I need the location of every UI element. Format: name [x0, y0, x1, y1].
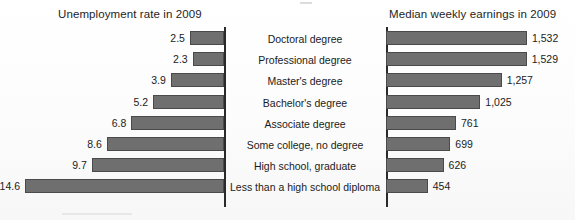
unemployment-bar [25, 179, 224, 193]
category-label: Doctoral degree [226, 30, 384, 48]
earnings-value-label: 761 [461, 116, 479, 130]
category-label: Professional degree [226, 51, 384, 69]
earnings-bar [386, 179, 428, 193]
earnings-value-label: 699 [455, 137, 473, 151]
chart-row: 6.8Associate degree761 [0, 114, 575, 135]
left-chart-title: Unemployment rate in 2009 [58, 8, 202, 20]
earnings-bar-group: 699 [386, 135, 575, 156]
earnings-bar [386, 158, 444, 172]
earnings-bar [386, 116, 456, 130]
chart-row: 9.7High school, graduate626 [0, 156, 575, 177]
earnings-bar [386, 95, 480, 109]
category-label: High school, graduate [226, 157, 384, 175]
unemployment-bar [190, 31, 224, 45]
earnings-bar-group: 1,529 [386, 50, 575, 71]
category-label: Bachelor's degree [226, 94, 384, 112]
scan-artifact-bottom [62, 213, 132, 215]
unemployment-value-label: 2.3 [173, 52, 188, 66]
earnings-value-label: 1,529 [532, 52, 558, 66]
unemployment-value-label: 3.9 [151, 73, 166, 87]
unemployment-value-label: 5.2 [134, 95, 149, 109]
unemployment-value-label: 14.6 [0, 179, 20, 193]
earnings-bar [386, 52, 527, 66]
unemployment-bar-group: 5.2 [0, 93, 224, 114]
earnings-bar [386, 31, 527, 45]
earnings-value-label: 1,257 [507, 73, 533, 87]
right-chart-title: Median weekly earnings in 2009 [389, 8, 556, 20]
chart-row: 8.6Some college, no degree699 [0, 135, 575, 156]
chart-row: 14.6Less than a high school diploma454 [0, 177, 575, 198]
unemployment-bar [171, 73, 224, 87]
category-label: Master's degree [226, 72, 384, 90]
unemployment-value-label: 6.8 [112, 116, 127, 130]
chart-rows: 2.5Doctoral degree1,5322.3Professional d… [0, 29, 575, 199]
earnings-bar-group: 1,257 [386, 71, 575, 92]
category-label: Some college, no degree [226, 136, 384, 154]
earnings-value-label: 454 [433, 179, 451, 193]
chart-row: 2.5Doctoral degree1,532 [0, 29, 575, 50]
unemployment-bar-group: 8.6 [0, 135, 224, 156]
chart-row: 2.3Professional degree1,529 [0, 50, 575, 71]
unemployment-bar [131, 116, 224, 130]
earnings-bar-group: 1,025 [386, 93, 575, 114]
category-label: Associate degree [226, 115, 384, 133]
earnings-value-label: 1,025 [485, 95, 511, 109]
category-label: Less than a high school diploma [226, 178, 384, 196]
earnings-bar-group: 454 [386, 177, 575, 198]
earnings-value-label: 626 [449, 158, 467, 172]
unemployment-value-label: 9.7 [72, 158, 87, 172]
unemployment-value-label: 2.5 [170, 31, 185, 45]
chart-row: 3.9Master's degree1,257 [0, 71, 575, 92]
unemployment-bar-group: 2.3 [0, 50, 224, 71]
unemployment-bar [92, 158, 224, 172]
chart-row: 5.2Bachelor's degree1,025 [0, 93, 575, 114]
scan-artifact-top [300, 2, 312, 4]
unemployment-bar [153, 95, 224, 109]
unemployment-value-label: 8.6 [87, 137, 102, 151]
earnings-bar [386, 137, 450, 151]
unemployment-bar-group: 2.5 [0, 29, 224, 50]
unemployment-bar [107, 137, 224, 151]
unemployment-bar-group: 9.7 [0, 156, 224, 177]
earnings-bar [386, 73, 502, 87]
unemployment-bar-group: 6.8 [0, 114, 224, 135]
unemployment-bar [193, 52, 224, 66]
earnings-bar-group: 1,532 [386, 29, 575, 50]
unemployment-bar-group: 14.6 [0, 177, 224, 198]
earnings-value-label: 1,532 [532, 31, 558, 45]
dual-bar-chart-figure: Unemployment rate in 2009 Median weekly … [0, 0, 575, 220]
earnings-bar-group: 626 [386, 156, 575, 177]
earnings-bar-group: 761 [386, 114, 575, 135]
unemployment-bar-group: 3.9 [0, 71, 224, 92]
